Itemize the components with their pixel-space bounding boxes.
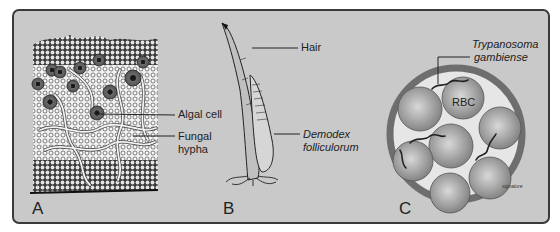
blood-vessel-illustration: signature [390, 57, 523, 213]
label-algal-cell: Algal cell [178, 108, 222, 121]
label-trypanosoma: Trypanosoma [472, 38, 538, 51]
label-folliculorum: folliculorum [303, 141, 359, 154]
label-gambiense: gambiense [472, 51, 538, 64]
label-demodex-folliculorum: Demodex folliculorum [303, 128, 359, 154]
hair-mite-illustration [222, 23, 300, 186]
label-rbc: RBC [452, 96, 475, 109]
panel-letter-a: A [32, 199, 43, 219]
label-fungal: Fungal [178, 130, 212, 143]
lichen-illustration [30, 35, 175, 193]
svg-text:signature: signature [502, 183, 523, 189]
label-fungal-hypha: Fungal hypha [178, 130, 212, 156]
panel-letter-c: C [399, 199, 411, 219]
label-hair: Hair [301, 41, 321, 54]
label-trypanosoma-gambiense: Trypanosoma gambiense [472, 38, 538, 64]
label-demodex: Demodex [303, 128, 359, 141]
figure-artwork: signature [0, 0, 560, 232]
panel-letter-b: B [223, 199, 234, 219]
label-hypha: hypha [178, 143, 212, 156]
